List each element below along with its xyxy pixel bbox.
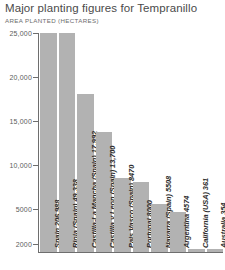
y-axis-label: 20,000 — [2, 74, 32, 81]
bars-layer: Spain 206,988Rioja (Spain) 49,338Castill… — [39, 33, 225, 252]
y-axis-label: 10,000 — [2, 162, 32, 169]
bar — [188, 249, 205, 252]
chart-subtitle: AREA PLANTED (HECTARES) — [5, 17, 99, 24]
x-axis-line — [38, 252, 223, 253]
y-axis-label: 2000 — [2, 241, 32, 248]
chart-title: Major planting figures for Tempranillo — [5, 2, 197, 14]
y-axis-label: 25,000 — [2, 30, 32, 37]
bar — [207, 249, 224, 252]
y-axis-label: 15,000 — [2, 118, 32, 125]
y-axis-label: 5000 — [2, 206, 32, 213]
bar-chart: Major planting figures for Tempranillo A… — [0, 0, 225, 270]
